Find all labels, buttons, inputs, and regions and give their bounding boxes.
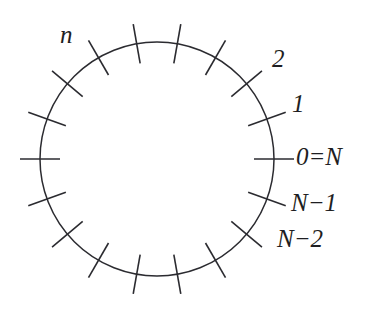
label-index-1: 1 <box>292 91 305 116</box>
label-n: n <box>60 22 73 47</box>
tick-mark-group <box>20 24 294 294</box>
label-index-n-minus-2: N−2 <box>277 226 323 251</box>
circle-outline <box>40 42 274 276</box>
tick-mark <box>231 71 262 97</box>
tick-mark <box>28 192 66 206</box>
tick-mark <box>52 71 83 97</box>
tick-mark <box>231 221 262 247</box>
tick-mark <box>206 243 226 278</box>
tick-mark <box>248 192 286 206</box>
tick-mark <box>89 243 109 278</box>
label-index-zero-equals-n: 0=N <box>296 144 342 169</box>
label-index-2: 2 <box>272 46 285 71</box>
figure-root: n 2 1 0=N N−1 N−2 <box>0 0 384 315</box>
tick-mark <box>28 112 66 126</box>
tick-mark <box>248 112 286 126</box>
label-index-n-minus-1: N−1 <box>291 190 337 215</box>
tick-mark <box>89 40 109 75</box>
tick-mark <box>206 40 226 75</box>
tick-mark <box>52 221 83 247</box>
